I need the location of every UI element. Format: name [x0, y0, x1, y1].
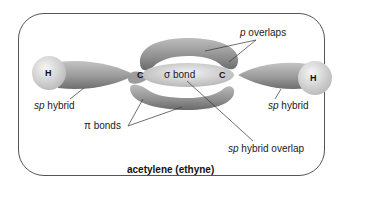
sp-hybrid-lobe-left — [58, 61, 135, 89]
label-sp-hybrid-left: sp hybrid — [34, 100, 75, 112]
label-sigma-bond: σ bond — [164, 69, 195, 81]
label-p-overlaps: p overlaps — [240, 27, 286, 39]
atom-carbon-left: C — [137, 70, 144, 80]
label-pi-bonds: π bonds — [84, 120, 121, 132]
label-sp-hybrid-right: sp hybrid — [268, 100, 309, 112]
atom-hydrogen-right: H — [310, 73, 317, 83]
label-sp-hybrid-overlap: sp hybrid overlap — [228, 143, 304, 155]
atom-hydrogen-left: H — [45, 68, 52, 78]
sp-hybrid-lobe-right — [238, 63, 308, 89]
atom-carbon-right: C — [219, 70, 226, 80]
diagram-title: acetylene (ethyne) — [127, 164, 214, 175]
